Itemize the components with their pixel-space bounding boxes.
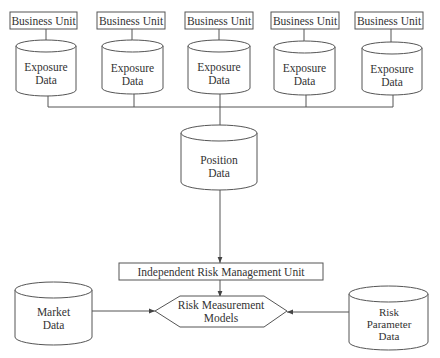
business-unit-label: Business Unit [187, 15, 252, 27]
svg-text:Data: Data [381, 76, 403, 88]
business-unit-label: Business Unit [11, 15, 76, 27]
exposure-data-store-3: Exposure Data [188, 40, 250, 94]
business-unit-label: Business Unit [99, 15, 164, 27]
svg-text:Data: Data [43, 319, 65, 331]
svg-text:Data: Data [208, 167, 230, 179]
business-unit-5: Business Unit Exposure Data [355, 12, 423, 107]
risk-measurement-models: Risk Measurement Models [155, 296, 287, 327]
svg-text:Exposure: Exposure [24, 61, 67, 74]
risk-parameter-data-store: Risk Parameter Data [349, 286, 428, 350]
svg-text:Data: Data [294, 75, 316, 87]
business-unit-3: Business Unit Exposure Data [185, 12, 253, 107]
business-unit-label: Business Unit [357, 15, 422, 27]
market-data-store: Market Data [15, 282, 92, 345]
svg-text:Exposure: Exposure [283, 62, 326, 75]
svg-text:Risk Measurement: Risk Measurement [178, 299, 265, 311]
exposure-data-store-5: Exposure Data [362, 42, 422, 95]
svg-text:Data: Data [122, 75, 144, 87]
business-unit-2: Business Unit Exposure Data [97, 12, 165, 107]
svg-text:Exposure: Exposure [197, 61, 240, 74]
exposure-data-store-2: Exposure Data [102, 40, 163, 94]
svg-text:Exposure: Exposure [370, 63, 413, 76]
risk-data-flow-diagram: Business Unit Exposure Data Business Uni… [0, 0, 440, 358]
exposure-data-store-1: Exposure Data [16, 40, 76, 96]
svg-text:Position: Position [200, 154, 238, 166]
position-data-store: Position Data [181, 125, 257, 190]
business-unit-label: Business Unit [273, 15, 338, 27]
exposure-data-store-4: Exposure Data [274, 41, 335, 95]
svg-text:Exposure: Exposure [111, 62, 154, 75]
svg-text:Models: Models [204, 312, 239, 324]
svg-text:Risk: Risk [379, 306, 400, 318]
svg-text:Parameter: Parameter [367, 318, 412, 330]
independent-risk-management-unit: Independent Risk Management Unit [119, 263, 323, 280]
svg-text:Market: Market [37, 306, 71, 318]
business-unit-4: Business Unit Exposure Data [271, 12, 339, 107]
svg-text:Independent Risk Management Un: Independent Risk Management Unit [137, 266, 305, 279]
svg-text:Data: Data [379, 330, 400, 342]
svg-text:Data: Data [35, 74, 57, 86]
business-unit-1: Business Unit Exposure Data [10, 12, 77, 107]
svg-text:Data: Data [208, 74, 230, 86]
